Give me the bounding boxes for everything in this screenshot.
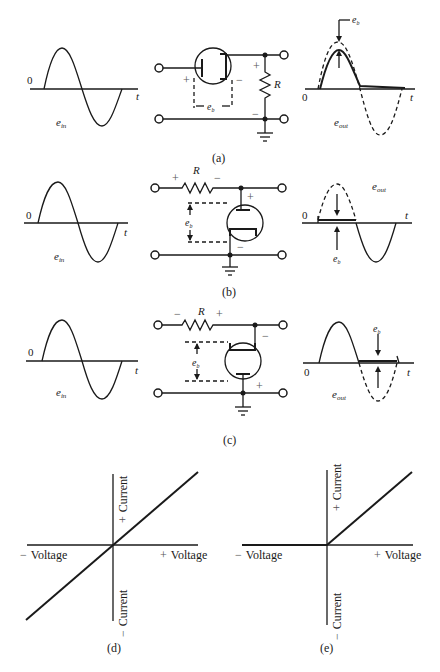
ground-icon xyxy=(222,255,238,275)
minus-current-label: −Current xyxy=(116,589,130,637)
vacuum-diode-icon xyxy=(225,343,261,379)
graph-d: −Voltage +Voltage +Current −Current (d) xyxy=(20,472,207,655)
resistor-label: R xyxy=(192,164,200,176)
diode-clipper-figure: 0 t ein xyxy=(0,0,440,672)
signal-label: eout xyxy=(334,116,349,130)
graph-e: −Voltage +Voltage +Current −Current (e) xyxy=(235,463,421,655)
resistor-label: R xyxy=(273,78,281,90)
time-axis-label: t xyxy=(135,364,139,376)
caption-d: (d) xyxy=(107,641,121,655)
output-waveform-a: eb 0 t eout xyxy=(302,14,415,135)
time-axis-label: t xyxy=(124,226,128,238)
panel-a: 0 t ein xyxy=(27,14,415,165)
signal-label: ein xyxy=(56,116,67,130)
time-axis-label: t xyxy=(410,91,414,103)
panel-b: 0 t ein xyxy=(24,164,412,299)
origin-label: 0 xyxy=(304,366,310,378)
panel-c: 0 t ein xyxy=(26,305,414,447)
origin-label: 0 xyxy=(302,209,308,221)
circuit-a: eb + − + − R xyxy=(155,48,288,141)
circuit-b: eb R + − + − xyxy=(151,164,286,275)
input-terminal-top xyxy=(155,64,163,72)
signal-label: ein xyxy=(56,386,67,400)
minus-sign: − xyxy=(237,240,244,254)
output-waveform-c: eb 0 t eout xyxy=(303,322,414,402)
caption-c: (c) xyxy=(223,433,236,447)
drop-label: eb xyxy=(352,14,359,26)
signal-label: eout xyxy=(372,180,387,194)
minus-current-label: −Current xyxy=(330,592,344,640)
time-axis-label: t xyxy=(407,366,411,378)
minus-sign: − xyxy=(174,307,181,321)
output-terminal-top xyxy=(280,51,288,59)
input-waveform-a: 0 t ein xyxy=(27,48,140,130)
signal-label: ein xyxy=(54,250,65,264)
plus-sign: + xyxy=(256,379,263,393)
circuit-c: eb R − + − + xyxy=(154,305,287,415)
plus-voltage-label: +Voltage xyxy=(374,548,421,562)
minus-sign: − xyxy=(214,171,221,185)
caption-e: (e) xyxy=(320,641,333,655)
origin-label: 0 xyxy=(27,74,33,86)
input-terminal-bottom xyxy=(155,115,163,123)
plus-sign: + xyxy=(253,59,260,73)
drop-label: eb xyxy=(192,357,199,369)
time-axis-label: t xyxy=(136,90,140,102)
origin-label: 0 xyxy=(26,209,32,221)
drop-label: eb xyxy=(207,101,214,113)
input-waveform-c: 0 t ein xyxy=(26,320,139,400)
plus-current-label: +Current xyxy=(330,463,344,511)
vacuum-diode-icon xyxy=(195,48,231,84)
plus-current-label: +Current xyxy=(116,475,130,523)
drop-label: eb xyxy=(185,217,192,229)
input-waveform-b: 0 t ein xyxy=(24,182,128,264)
plus-sign: + xyxy=(216,307,223,321)
plus-sign: + xyxy=(172,171,179,185)
minus-sign: − xyxy=(236,73,243,87)
origin-label: 0 xyxy=(28,346,34,358)
signal-label: eout xyxy=(332,388,347,402)
drop-label: eb xyxy=(333,253,340,265)
ground-icon xyxy=(235,393,251,415)
minus-voltage-label: −Voltage xyxy=(235,548,282,562)
resistor-icon xyxy=(260,55,270,119)
plus-sign: + xyxy=(183,73,190,87)
output-waveform-b: eb 0 t eout xyxy=(302,180,412,265)
linear-characteristic xyxy=(26,472,198,620)
output-terminal-bottom xyxy=(280,115,288,123)
minus-sign: − xyxy=(252,107,259,121)
origin-label: 0 xyxy=(302,91,308,103)
drop-label: eb xyxy=(373,323,380,335)
time-axis-label: t xyxy=(405,209,409,221)
plus-sign: + xyxy=(247,190,254,204)
caption-a: (a) xyxy=(212,151,225,165)
ground-icon xyxy=(257,119,273,141)
vacuum-diode-icon xyxy=(227,205,263,241)
plus-voltage-label: +Voltage xyxy=(160,548,207,562)
minus-sign: − xyxy=(262,329,269,343)
minus-voltage-label: −Voltage xyxy=(20,548,67,562)
resistor-label: R xyxy=(197,305,205,317)
caption-b: (b) xyxy=(222,285,236,299)
